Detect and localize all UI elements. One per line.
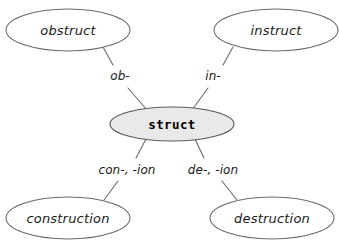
node-construction: construction: [6, 197, 130, 239]
edge-label-in: in-: [205, 69, 221, 83]
node-label-struct: struct: [148, 117, 196, 132]
edge-line-construction-upper: [136, 139, 146, 158]
node-instruct: instruct: [214, 9, 338, 51]
edge-line-obstruct-lower: [128, 88, 147, 110]
node-destruction: destruction: [210, 197, 334, 239]
edge-line-obstruct-upper: [103, 47, 113, 65]
edge-label-de-ion: de-, -ion: [188, 163, 238, 177]
edge-line-instruct-lower: [192, 88, 208, 110]
edge-line-destruction-lower: [222, 181, 237, 200]
edge-line-instruct-upper: [223, 47, 233, 65]
node-label-obstruct: obstruct: [40, 23, 96, 38]
node-obstruct: obstruct: [6, 9, 130, 51]
concept-map-diagram: ob- in- con-, -ion de-, -ion obstruct in…: [0, 0, 339, 241]
node-label-instruct: instruct: [250, 23, 302, 38]
edge-line-construction-lower: [104, 181, 118, 200]
node-label-destruction: destruction: [234, 211, 310, 226]
edge-line-destruction-upper: [195, 139, 204, 158]
node-struct-center: struct: [110, 107, 234, 141]
node-label-construction: construction: [26, 211, 109, 226]
edge-label-con-ion: con-, -ion: [98, 163, 155, 177]
edge-label-ob: ob-: [110, 69, 130, 83]
diagram-canvas: ob- in- con-, -ion de-, -ion obstruct in…: [0, 0, 339, 241]
